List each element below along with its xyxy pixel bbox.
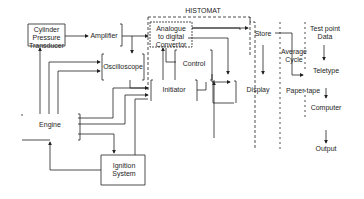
block-engine: Engine	[22, 121, 78, 129]
block-analogue-to-digital-convertor: Analogue to digital Convertor	[150, 25, 192, 49]
block-paper-tape: Paper tape	[282, 87, 324, 95]
block-cylinder-pressure-transducer: Cylinder Pressure Transducer	[28, 26, 65, 50]
block-test-point-data: Test point Data	[304, 25, 346, 41]
block-store: Store	[248, 30, 278, 38]
block-teletype: Teletype	[306, 67, 346, 75]
block-average-cycle: Average Cycle	[280, 48, 308, 64]
block-display: Display	[236, 86, 280, 94]
block-ignition-system: Ignition System	[102, 162, 146, 178]
block-control: Control	[177, 60, 211, 68]
block-oscilloscope: Oscilloscope	[102, 63, 144, 71]
block-output: Output	[306, 145, 346, 153]
block-initiator: Initiator	[152, 86, 196, 94]
block-computer: Computer	[306, 104, 346, 112]
histomat-title: HISTOMAT	[178, 7, 228, 15]
block-amplifier: Amplifier	[86, 32, 122, 40]
